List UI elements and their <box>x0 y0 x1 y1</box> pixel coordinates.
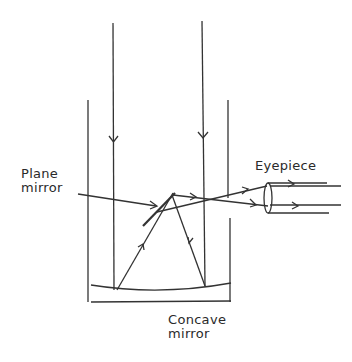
eyepiece-lens <box>264 183 272 213</box>
incoming-rays <box>109 21 208 290</box>
plane-mirror-label-line2: mirror <box>21 181 63 195</box>
concave-mirror-label-line1: Concave <box>168 313 226 327</box>
arrow-right-icon <box>250 199 256 207</box>
plane-mirror-label-line1: Plane <box>21 167 63 181</box>
eyepiece-label: Eyepiece <box>255 159 316 173</box>
plane-mirror-pointer <box>78 194 156 206</box>
arrow-up-icon <box>188 237 193 243</box>
telescope-tube <box>88 100 231 302</box>
arrow-right-icon <box>242 187 248 194</box>
plane-mirror-label: Plane mirror <box>21 167 63 195</box>
concave-mirror-label: Concave mirror <box>168 313 226 341</box>
concave-mirror <box>91 283 231 290</box>
eyepiece <box>264 180 341 213</box>
concave-mirror-label-line2: mirror <box>168 327 226 341</box>
